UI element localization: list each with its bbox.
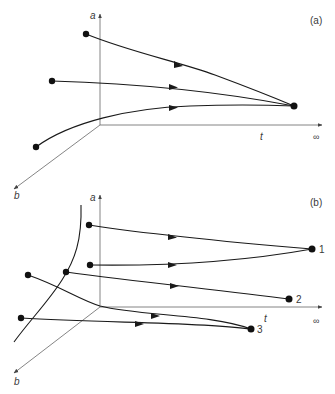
b-axis-label: b: [14, 190, 20, 201]
start-point: [83, 31, 89, 37]
end-point-2-label: 2: [296, 294, 302, 305]
start-point: [49, 78, 55, 84]
end-point: [291, 103, 298, 110]
panel-label-b: (b): [310, 197, 322, 208]
end-point-3: [248, 326, 255, 333]
b-axis: [14, 307, 100, 373]
infinity-label: ∞: [313, 316, 319, 326]
a-axis-label: a: [90, 10, 96, 21]
trajectory-to-1-upper: [89, 225, 312, 249]
panel-a: a t ∞ b (a): [14, 10, 322, 201]
infinity-label: ∞: [313, 132, 319, 142]
trajectory-3: [36, 105, 294, 147]
panel-b: a t ∞ b (b) 1 2 3: [14, 192, 325, 387]
panel-label-a: (a): [310, 15, 322, 26]
t-axis-label: t: [260, 131, 264, 142]
b-axis-label: b: [14, 376, 20, 387]
trajectory-to-3-upper: [28, 275, 251, 329]
separatrix-curve: [14, 205, 81, 342]
a-axis-label: a: [90, 192, 96, 203]
end-point-2: [286, 296, 293, 303]
start-point: [63, 269, 69, 275]
direction-arrow-icon: [169, 105, 178, 111]
direction-arrow-icon: [170, 283, 179, 289]
direction-arrow-icon: [168, 234, 177, 240]
start-point: [86, 222, 92, 228]
end-point-3-label: 3: [257, 324, 263, 335]
direction-arrow-icon: [135, 321, 144, 327]
t-axis-label: t: [264, 313, 268, 324]
trajectory-diagram: a t ∞ b (a) a t ∞ b (b): [0, 0, 335, 394]
end-point-1: [309, 246, 316, 253]
start-point: [18, 315, 24, 321]
trajectory-to-1-lower: [90, 249, 312, 265]
trajectory-1: [86, 34, 294, 106]
direction-arrow-icon: [168, 262, 177, 268]
end-point-1-label: 1: [319, 244, 325, 255]
start-point: [25, 272, 31, 278]
start-point: [33, 144, 39, 150]
start-point: [87, 262, 93, 268]
trajectory-2: [52, 81, 294, 106]
